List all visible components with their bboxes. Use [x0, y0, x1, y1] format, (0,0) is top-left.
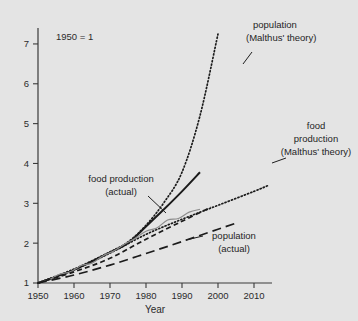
leader-population-malthus	[243, 52, 252, 64]
annotation-population-actual: population (actual)	[212, 230, 256, 254]
leader-population-actual	[186, 236, 203, 240]
annotation-line: population	[253, 19, 297, 30]
x-tick-label: 2010	[243, 290, 264, 301]
y-tick-label: 2	[24, 238, 29, 249]
series-dotted	[38, 34, 218, 283]
annotation-line: (actual)	[218, 243, 250, 254]
x-tick-label: 1950	[27, 290, 48, 301]
x-tick-label: 1960	[63, 290, 84, 301]
x-axis-ticks: 1950196019701980199020002010	[27, 283, 264, 301]
annotation-line: production	[294, 133, 338, 144]
annotation-line: (Malthus' theory)	[246, 32, 316, 43]
y-tick-label: 3	[24, 198, 29, 209]
annotation-food-production-malthus: food production (Malthus' theory)	[281, 120, 351, 157]
y-tick-label: 7	[24, 38, 29, 49]
annotation-line: food	[307, 120, 326, 131]
annotation-food-production-actual: food production (actual)	[88, 173, 154, 197]
x-tick-label: 1980	[135, 290, 156, 301]
annotation-line: population	[212, 230, 256, 241]
x-tick-label: 1990	[171, 290, 192, 301]
leader-food-production-malthus	[272, 158, 286, 163]
x-tick-label: 2000	[207, 290, 228, 301]
x-tick-label: 1970	[99, 290, 120, 301]
y-tick-label: 6	[24, 78, 29, 89]
series-longdash	[38, 223, 236, 283]
y-axis-ticks: 1234567	[24, 38, 38, 288]
series-wiggle	[38, 209, 200, 283]
annotation-line: (Malthus' theory)	[281, 146, 351, 157]
y-tick-label: 1	[24, 277, 29, 288]
x-axis-title: Year	[145, 304, 166, 315]
annotation-line: (actual)	[105, 186, 137, 197]
chart-container: 1234567 1950196019701980199020002010 195…	[0, 0, 358, 321]
annotation-line: food production	[88, 173, 154, 184]
baseline-note: 1950 = 1	[56, 31, 93, 42]
malthus-chart: 1234567 1950196019701980199020002010 195…	[0, 0, 358, 321]
y-tick-label: 5	[24, 118, 29, 129]
y-tick-label: 4	[24, 158, 29, 169]
annotation-population-malthus: population (Malthus' theory)	[246, 19, 316, 43]
